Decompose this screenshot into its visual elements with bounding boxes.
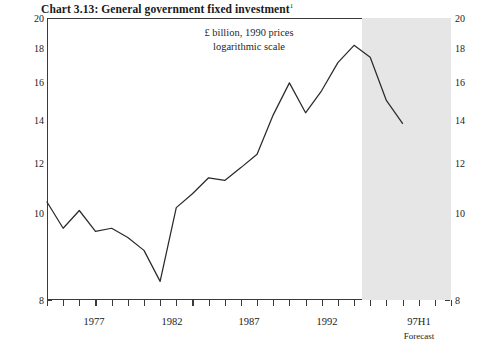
investment-line bbox=[47, 45, 403, 281]
chart-title: Chart 3.13: General government fixed inv… bbox=[41, 2, 293, 15]
x-axis-tickmark bbox=[257, 300, 258, 306]
x-axis-tickmark bbox=[225, 300, 226, 306]
x-axis-tickmark bbox=[160, 300, 161, 306]
forecast-caption: Forecast bbox=[404, 331, 435, 341]
y-axis-left-labels: 20 18 16 14 12 10 8 bbox=[20, 18, 44, 300]
x-axis-tickmark bbox=[370, 300, 371, 306]
y-axis-left-tick-label: 20 bbox=[34, 13, 44, 24]
x-axis-tickmark bbox=[451, 300, 452, 306]
x-axis-tickmark bbox=[47, 300, 48, 306]
chart-title-text: Chart 3.13: General government fixed inv… bbox=[41, 3, 290, 15]
x-axis-labels: 1977 1982 1987 1992 97H1 bbox=[0, 316, 483, 330]
x-axis-tickmark bbox=[144, 300, 145, 306]
x-axis-tickmark bbox=[386, 300, 387, 306]
x-axis-tick-label: 1987 bbox=[239, 316, 260, 327]
y-axis-right-tick-label: 14 bbox=[455, 114, 465, 125]
y-axis-right-tick-label: 16 bbox=[455, 76, 465, 87]
x-axis-tickmark bbox=[289, 300, 290, 306]
y-axis-right-tick-label: 18 bbox=[455, 43, 465, 54]
x-axis-tickmark bbox=[419, 300, 420, 306]
x-axis-tick-label: 97H1 bbox=[407, 316, 430, 327]
y-axis-right-tick-label: 8 bbox=[455, 295, 460, 306]
y-axis-left-tick-label: 8 bbox=[39, 295, 44, 306]
x-axis-tick-label: 1982 bbox=[162, 316, 183, 327]
x-axis-tickmark bbox=[241, 300, 242, 306]
x-axis-tickmark bbox=[192, 300, 193, 306]
x-axis-tickmark bbox=[354, 300, 355, 306]
x-axis-tickmark bbox=[322, 300, 323, 306]
y-axis-right-tick-label: 12 bbox=[455, 157, 465, 168]
chart-title-footnote-marker: 1 bbox=[290, 2, 294, 10]
y-axis-left-tick-label: 14 bbox=[34, 114, 44, 125]
data-series-line bbox=[47, 18, 451, 300]
y-axis-left-tick-label: 16 bbox=[34, 76, 44, 87]
x-axis-tickmark bbox=[435, 300, 436, 306]
x-axis-tickmark bbox=[209, 300, 210, 306]
x-axis-tickmark bbox=[306, 300, 307, 306]
x-axis-tickmark bbox=[176, 300, 177, 306]
x-axis-tickmark bbox=[273, 300, 274, 306]
x-axis-tickmark bbox=[338, 300, 339, 306]
x-axis-tickmark bbox=[112, 300, 113, 306]
x-axis-tick-label: 1977 bbox=[84, 316, 105, 327]
y-axis-right-tick-label: 10 bbox=[455, 207, 465, 218]
x-axis-tickmark bbox=[79, 300, 80, 306]
x-axis-tickmark bbox=[63, 300, 64, 306]
x-axis-tickmark bbox=[403, 300, 404, 306]
chart-figure: Chart 3.13: General government fixed inv… bbox=[0, 0, 483, 347]
x-axis-tickmark bbox=[95, 300, 96, 306]
x-axis-tick-label: 1992 bbox=[317, 316, 338, 327]
y-axis-right-labels: 20 18 16 14 12 10 8 bbox=[455, 18, 481, 300]
y-axis-left-tick-label: 12 bbox=[34, 157, 44, 168]
plot-area: £ billion, 1990 prices logarithmic scale bbox=[47, 18, 451, 300]
y-axis-tickmark bbox=[445, 300, 450, 301]
y-axis-left-tick-label: 18 bbox=[34, 43, 44, 54]
y-axis-right-tick-label: 20 bbox=[455, 13, 465, 24]
y-axis-left-tick-label: 10 bbox=[34, 207, 44, 218]
x-axis-tickmark bbox=[128, 300, 129, 306]
